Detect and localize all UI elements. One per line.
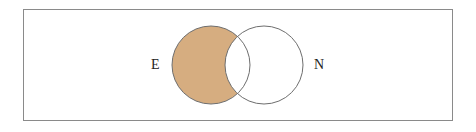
set-n-label: N <box>314 58 324 72</box>
venn-diagram <box>0 0 476 132</box>
set-e-label: E <box>151 58 160 72</box>
